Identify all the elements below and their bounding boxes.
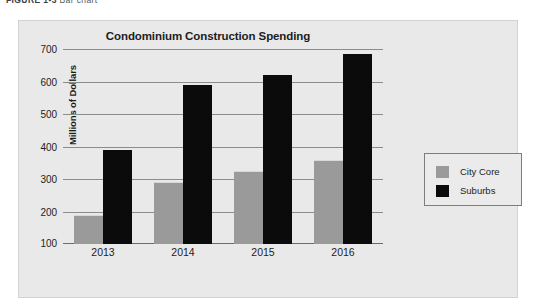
figure-caption: FIGURE 1-3 Bar chart bbox=[6, 0, 98, 5]
bar-suburbs-2016 bbox=[343, 54, 372, 244]
ytick-label-500: 500 bbox=[17, 109, 57, 120]
chart-panel: Condominium Construction Spending Millio… bbox=[18, 20, 518, 298]
legend-swatch-suburbs-icon bbox=[436, 185, 449, 197]
bar-suburbs-2015 bbox=[263, 75, 292, 244]
bar-city-core-2016 bbox=[314, 160, 343, 245]
xtick-label-2016: 2016 bbox=[303, 246, 383, 258]
figure-caption-text: Bar chart bbox=[60, 0, 98, 5]
bar-groups bbox=[63, 49, 383, 244]
legend-label-suburbs: Suburbs bbox=[460, 185, 495, 196]
ytick-label-200: 200 bbox=[17, 206, 57, 217]
bar-suburbs-2014 bbox=[183, 85, 212, 244]
bar-suburbs-2013 bbox=[103, 150, 132, 244]
plot-wrapper: Millions of Dollars 700 600 500 400 300 … bbox=[63, 49, 383, 265]
bar-city-core-2014 bbox=[154, 182, 183, 244]
bar-city-core-2015 bbox=[234, 171, 263, 244]
ytick-label-600: 600 bbox=[17, 76, 57, 87]
xtick-label-2014: 2014 bbox=[143, 246, 223, 258]
x-axis-tick-row: 2013 2014 2015 2016 bbox=[63, 246, 383, 258]
chart-title: Condominium Construction Spending bbox=[19, 30, 517, 42]
bar-group-2014 bbox=[143, 49, 223, 244]
figure-number: FIGURE 1-3 bbox=[6, 0, 57, 5]
bar-city-core-2013 bbox=[74, 215, 103, 244]
xtick-label-2013: 2013 bbox=[63, 246, 143, 258]
plot-area: 700 600 500 400 300 200 100 bbox=[63, 49, 383, 244]
legend-swatch-city-core-icon bbox=[436, 166, 449, 178]
ytick-label-700: 700 bbox=[17, 44, 57, 55]
bar-group-2015 bbox=[223, 49, 303, 244]
figure-page: FIGURE 1-3 Bar chart Condominium Constru… bbox=[0, 0, 534, 306]
legend-entry-city-core: City Core bbox=[436, 162, 521, 181]
legend-entry-suburbs: Suburbs bbox=[436, 181, 521, 200]
bar-group-2013 bbox=[63, 49, 143, 244]
ytick-label-100: 100 bbox=[17, 238, 57, 249]
ytick-label-300: 300 bbox=[17, 174, 57, 185]
ytick-label-400: 400 bbox=[17, 141, 57, 152]
legend-label-city-core: City Core bbox=[460, 166, 500, 177]
xtick-label-2015: 2015 bbox=[223, 246, 303, 258]
chart-legend: City Core Suburbs bbox=[424, 153, 522, 206]
bar-group-2016 bbox=[303, 49, 383, 244]
